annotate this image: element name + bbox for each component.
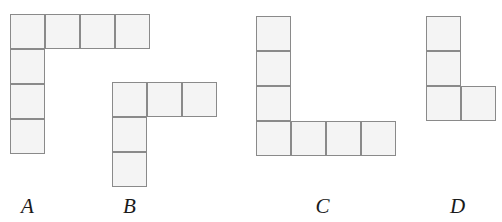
shape-c-cell	[361, 121, 396, 156]
shape-a-cell	[80, 14, 115, 49]
shape-a-cell	[10, 84, 45, 119]
shape-b-cell	[112, 152, 147, 187]
shape-a-cell	[10, 119, 45, 154]
shape-a-cell	[10, 14, 45, 49]
shape-a-cell	[45, 14, 80, 49]
shape-b-cell	[112, 117, 147, 152]
shape-a-cell	[115, 14, 150, 49]
shape-c-cell	[256, 51, 291, 86]
shape-c-cell	[256, 16, 291, 51]
shape-b-cell	[112, 82, 147, 117]
figure-canvas: ABCD	[0, 0, 502, 222]
shape-label-d: D	[440, 196, 475, 217]
shape-d-cell	[426, 86, 461, 121]
shape-d-cell	[426, 16, 461, 51]
shape-label-b: B	[112, 196, 147, 217]
shape-c-cell	[326, 121, 361, 156]
shape-b-cell	[147, 82, 182, 117]
shape-c-cell	[256, 121, 291, 156]
shape-c-cell	[256, 86, 291, 121]
shape-a-cell	[10, 49, 45, 84]
shape-b-cell	[182, 82, 217, 117]
shape-label-c: C	[305, 196, 340, 217]
shape-c-cell	[291, 121, 326, 156]
shape-d-cell	[461, 86, 496, 121]
shape-label-a: A	[10, 196, 45, 217]
shape-d-cell	[426, 51, 461, 86]
